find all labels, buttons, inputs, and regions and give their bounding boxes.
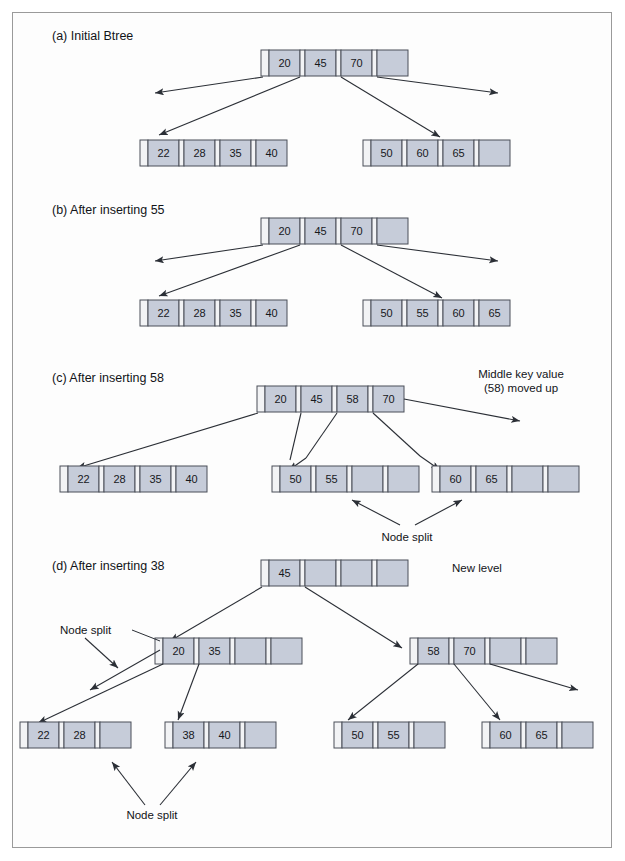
cell-value: 70 <box>350 57 362 69</box>
cell-value: 50 <box>380 307 392 319</box>
cell-value: 35 <box>229 307 241 319</box>
annotation-middle-key-line2: (58) moved up <box>484 382 558 394</box>
section-label-d: (d) After inserting 38 <box>52 559 165 573</box>
annotation-middle-key-line1: Middle key value <box>478 368 564 380</box>
edge-c-middle-key <box>404 399 520 421</box>
edge-c-root-stub-left <box>290 413 301 460</box>
cell-value: 35 <box>208 645 220 657</box>
cell-value: 35 <box>149 473 161 485</box>
cell-value: 45 <box>314 57 326 69</box>
node-a-leaf-right: 50 60 65 <box>363 140 510 166</box>
node-c-leaf-mid: 50 55 <box>272 466 419 492</box>
node-c-root: 20 45 58 70 <box>257 386 404 412</box>
edge-b-root-left <box>159 245 300 296</box>
edge-c-root-leaf-left <box>77 413 258 468</box>
annotation-new-level: New level <box>452 562 502 574</box>
edge-a-root-left <box>159 77 300 135</box>
section-label-a: (a) Initial Btree <box>52 29 133 43</box>
annotation-node-split-c: Node split <box>381 531 433 543</box>
node-d-leaf-4: 60 65 <box>482 722 593 748</box>
edge-d-mid-right-leaf3 <box>348 664 418 720</box>
figure-page: (a) Initial Btree 20 45 70 <box>0 0 625 861</box>
edge-a-root-far-right <box>377 77 498 93</box>
node-d-leaf-2: 38 40 <box>165 722 276 748</box>
cell-value: 65 <box>535 729 547 741</box>
edge-b-root-far-right <box>377 245 498 261</box>
annotation-node-split-d-left: Node split <box>60 624 112 636</box>
cell-value: 28 <box>113 473 125 485</box>
cell-value: 38 <box>182 729 194 741</box>
cell-value: 40 <box>265 147 277 159</box>
cell-value: 20 <box>172 645 184 657</box>
edge-d-bottom-nodesplit-left <box>112 762 145 805</box>
node-d-mid-right: 58 70 <box>410 638 557 664</box>
cell-value: 22 <box>157 147 169 159</box>
cell-value: 28 <box>193 147 205 159</box>
node-d-root: 45 <box>261 560 408 586</box>
section-label-c: (c) After inserting 58 <box>52 371 164 385</box>
edge-d-root-mid-right <box>305 587 402 648</box>
edge-d-root-mid-left <box>170 587 262 641</box>
node-d-leaf-3: 50 55 <box>334 722 445 748</box>
edge-d-mid-right-out <box>490 664 578 690</box>
edge-c-root-stub-mid <box>306 413 337 458</box>
cell-value: 28 <box>193 307 205 319</box>
edge-d-mid-left-leaf2 <box>178 664 199 720</box>
edge-d-mid-left-leaf1 <box>38 664 163 723</box>
cell-value: 28 <box>73 729 85 741</box>
cell-value: 58 <box>346 393 358 405</box>
leader-node-split-d-left <box>132 630 160 641</box>
cell-value: 40 <box>185 473 197 485</box>
annotation-node-split-d-bottom: Node split <box>126 809 178 821</box>
node-b-leaf-left: 22 28 35 40 <box>140 300 287 326</box>
cell-value: 50 <box>380 147 392 159</box>
btree-diagram: (a) Initial Btree 20 45 70 <box>0 0 625 861</box>
cell-value: 50 <box>351 729 363 741</box>
cell-value: 55 <box>325 473 337 485</box>
cell-value: 58 <box>427 645 439 657</box>
node-a-leaf-left: 22 28 35 40 <box>140 140 287 166</box>
cell-value: 50 <box>289 473 301 485</box>
cell-value: 22 <box>37 729 49 741</box>
section-label-b: (b) After inserting 55 <box>52 203 165 217</box>
node-d-mid-left: 20 35 <box>155 638 302 664</box>
node-a-root: 20 45 70 <box>261 50 408 76</box>
node-c-leaf-right: 60 65 <box>432 466 579 492</box>
edge-c-nodesplit-left <box>352 500 400 525</box>
cell-value: 70 <box>463 645 475 657</box>
cell-value: 70 <box>382 393 394 405</box>
edge-a-root-far-left <box>155 77 263 93</box>
edge-b-root-right <box>341 245 442 298</box>
cell-value: 45 <box>314 225 326 237</box>
cell-value: 45 <box>278 567 290 579</box>
edge-d-nodesplit-left-arrow <box>85 638 118 668</box>
cell-value: 65 <box>488 307 500 319</box>
edge-a-root-right <box>341 77 440 137</box>
cell-value: 40 <box>218 729 230 741</box>
edge-d-mid-right-leaf4 <box>454 664 500 720</box>
cell-value: 20 <box>274 393 286 405</box>
node-d-leaf-1: 22 28 <box>20 722 131 748</box>
cell-value: 60 <box>449 473 461 485</box>
cell-value: 60 <box>416 147 428 159</box>
cell-value: 65 <box>485 473 497 485</box>
cell-value: 55 <box>416 307 428 319</box>
node-c-leaf-left: 22 28 35 40 <box>60 466 207 492</box>
cell-value: 55 <box>387 729 399 741</box>
cell-value: 45 <box>310 393 322 405</box>
edge-b-root-far-left <box>155 245 263 261</box>
edge-c-root-stub-right <box>373 413 420 456</box>
edge-d-bottom-nodesplit-right <box>160 762 196 805</box>
cell-value: 60 <box>499 729 511 741</box>
cell-value: 65 <box>452 147 464 159</box>
cell-value: 22 <box>77 473 89 485</box>
cell-value: 70 <box>350 225 362 237</box>
cell-value: 60 <box>452 307 464 319</box>
cell-value: 35 <box>229 147 241 159</box>
edge-c-nodesplit-right <box>415 500 462 525</box>
cell-value: 20 <box>278 225 290 237</box>
cell-value: 20 <box>278 57 290 69</box>
node-b-leaf-right: 50 55 60 65 <box>363 300 510 326</box>
cell-value: 22 <box>157 307 169 319</box>
cell-value: 40 <box>265 307 277 319</box>
